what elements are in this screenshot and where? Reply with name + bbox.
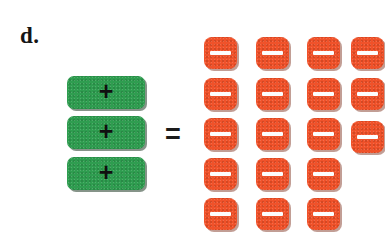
minus-icon bbox=[210, 132, 231, 136]
negative-tile[interactable] bbox=[256, 198, 289, 230]
minus-icon bbox=[210, 172, 231, 176]
negative-tile[interactable] bbox=[351, 37, 384, 69]
minus-icon bbox=[262, 132, 283, 136]
minus-icon bbox=[313, 172, 334, 176]
negative-tile[interactable] bbox=[307, 118, 340, 150]
negative-tile[interactable] bbox=[256, 118, 289, 150]
negative-tile[interactable] bbox=[256, 158, 289, 190]
plus-icon: + bbox=[99, 79, 114, 104]
minus-icon bbox=[210, 51, 231, 55]
minus-icon bbox=[357, 92, 378, 96]
equals-sign: = bbox=[163, 119, 183, 149]
negative-tile[interactable] bbox=[351, 78, 384, 110]
minus-icon bbox=[210, 212, 231, 216]
minus-icon bbox=[262, 51, 283, 55]
problem-label: d. bbox=[20, 24, 40, 47]
negative-tile[interactable] bbox=[204, 158, 237, 190]
negative-tile[interactable] bbox=[256, 37, 289, 69]
positive-tile[interactable]: + bbox=[67, 157, 145, 190]
negative-tile[interactable] bbox=[204, 118, 237, 150]
positive-tile[interactable]: + bbox=[67, 76, 145, 109]
minus-icon bbox=[210, 92, 231, 96]
negative-tile[interactable] bbox=[204, 198, 237, 230]
minus-icon bbox=[313, 132, 334, 136]
negative-tile[interactable] bbox=[204, 37, 237, 69]
minus-icon bbox=[357, 51, 378, 55]
minus-icon bbox=[357, 135, 378, 139]
minus-icon bbox=[313, 51, 334, 55]
negative-tile[interactable] bbox=[204, 78, 237, 110]
negative-tile[interactable] bbox=[307, 198, 340, 230]
negative-tile[interactable] bbox=[307, 78, 340, 110]
minus-icon bbox=[313, 92, 334, 96]
worksheet-canvas: d. +++ = bbox=[0, 0, 385, 248]
plus-icon: + bbox=[99, 119, 114, 144]
negative-tile[interactable] bbox=[351, 121, 384, 153]
minus-icon bbox=[262, 212, 283, 216]
minus-icon bbox=[262, 92, 283, 96]
negative-tile[interactable] bbox=[307, 37, 340, 69]
positive-tile[interactable]: + bbox=[67, 116, 145, 149]
negative-tile[interactable] bbox=[256, 78, 289, 110]
minus-icon bbox=[313, 212, 334, 216]
plus-icon: + bbox=[99, 160, 114, 185]
negative-tile[interactable] bbox=[307, 158, 340, 190]
minus-icon bbox=[262, 172, 283, 176]
